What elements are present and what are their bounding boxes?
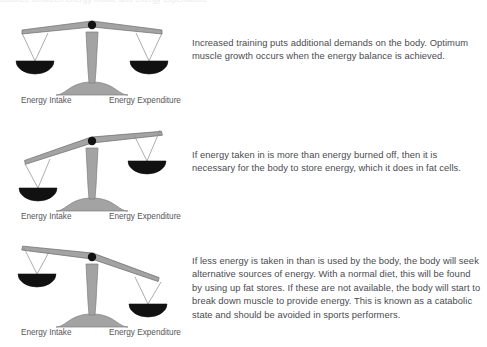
scale-labels-balanced: Energy Intake Energy Expenditure — [8, 96, 183, 112]
balance-scale-illustration — [8, 242, 183, 334]
scale-strings-left — [22, 33, 48, 61]
paragraph-balanced: Increased training puts additional deman… — [192, 36, 482, 63]
paragraph-expenditure-heavier: If less energy is taken in than is used … — [192, 254, 482, 321]
balance-scale-illustration — [8, 10, 183, 102]
label-energy-intake: Energy Intake — [21, 212, 72, 222]
label-energy-expenditure: Energy Expenditure — [109, 212, 181, 222]
balance-scale-illustration — [8, 126, 183, 218]
scale-diagram-intake-heavier: Energy Intake Energy Expenditure — [8, 126, 183, 231]
scale-pivot-dot — [88, 21, 96, 29]
energy-balance-row-intake-heavier: Energy Intake Energy Expenditure If ener… — [0, 126, 487, 231]
scale-pan-left-intake — [18, 274, 56, 287]
energy-balance-page: balance between energy intake and energy… — [0, 0, 487, 347]
scale-strings-right — [136, 33, 162, 61]
scale-base — [56, 198, 128, 211]
energy-balance-row-balanced: Energy Intake Energy Expenditure Increas… — [0, 10, 487, 115]
scale-pan-right-expenditure — [129, 304, 167, 317]
scale-labels-intake-heavier: Energy Intake Energy Expenditure — [8, 212, 183, 228]
scale-column — [86, 148, 98, 199]
scale-pan-right-expenditure — [128, 161, 166, 174]
scale-diagram-balanced: Energy Intake Energy Expenditure — [8, 10, 183, 115]
scale-pivot-dot — [88, 137, 96, 145]
scale-base — [56, 314, 128, 327]
energy-balance-row-expenditure-heavier: Energy Intake Energy Expenditure If less… — [0, 242, 487, 347]
scale-labels-expenditure-heavier: Energy Intake Energy Expenditure — [8, 328, 183, 344]
label-energy-expenditure: Energy Expenditure — [109, 96, 181, 106]
label-energy-intake: Energy Intake — [21, 328, 72, 338]
scale-pan-left-intake — [16, 61, 54, 74]
scale-pan-right-expenditure — [130, 61, 168, 74]
scale-diagram-expenditure-heavier: Energy Intake Energy Expenditure — [8, 242, 183, 347]
scale-column — [86, 32, 98, 83]
cropped-heading-strip: balance between energy intake and energy… — [0, 0, 487, 5]
scale-base — [56, 82, 128, 95]
cropped-heading-text: balance between energy intake and energy… — [0, 0, 487, 4]
label-energy-intake: Energy Intake — [21, 96, 72, 106]
label-energy-expenditure: Energy Expenditure — [109, 328, 181, 338]
scale-pivot-dot — [88, 253, 96, 261]
scale-column — [86, 264, 98, 315]
scale-pan-left-intake — [19, 188, 57, 201]
paragraph-intake-heavier: If energy taken in is more than energy b… — [192, 148, 482, 175]
